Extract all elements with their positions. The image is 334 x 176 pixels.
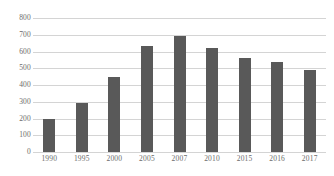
gridline bbox=[33, 152, 326, 153]
y-tick-label: 100 bbox=[0, 132, 31, 140]
x-axis: 199019952000200520072010201520162017 bbox=[33, 155, 326, 171]
bar bbox=[141, 46, 153, 152]
plot-area bbox=[33, 18, 326, 152]
bar bbox=[174, 36, 186, 152]
bar bbox=[76, 103, 88, 152]
y-tick-label: 0 bbox=[0, 148, 31, 156]
bar bbox=[206, 48, 218, 152]
x-tick-label: 2017 bbox=[290, 155, 330, 163]
bar bbox=[239, 58, 251, 152]
bar bbox=[43, 119, 55, 153]
bars-layer bbox=[33, 18, 326, 152]
y-axis: 0100200300400500600700800 bbox=[0, 0, 31, 176]
y-tick-label: 200 bbox=[0, 115, 31, 123]
y-tick-label: 300 bbox=[0, 98, 31, 106]
bar bbox=[304, 70, 316, 152]
y-tick-label: 700 bbox=[0, 31, 31, 39]
y-tick-label: 500 bbox=[0, 65, 31, 73]
y-tick-label: 400 bbox=[0, 81, 31, 89]
y-tick-label: 600 bbox=[0, 48, 31, 56]
bar-chart: 0100200300400500600700800 19901995200020… bbox=[0, 0, 334, 176]
y-tick-label: 800 bbox=[0, 14, 31, 22]
bar bbox=[108, 77, 120, 152]
bar bbox=[271, 62, 283, 152]
